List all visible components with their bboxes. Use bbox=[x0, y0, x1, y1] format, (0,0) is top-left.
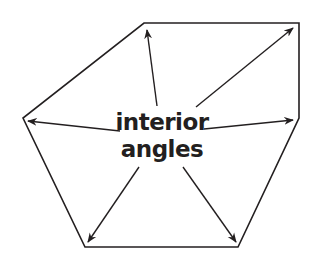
arrow-2 bbox=[196, 28, 293, 107]
arrow-4 bbox=[183, 167, 236, 242]
arrow-1 bbox=[147, 30, 157, 106]
interior-angles-diagram: interior angles bbox=[0, 0, 316, 259]
label-line-1: interior bbox=[102, 111, 222, 134]
label-line-2: angles bbox=[102, 138, 222, 161]
arrow-5 bbox=[88, 167, 139, 242]
